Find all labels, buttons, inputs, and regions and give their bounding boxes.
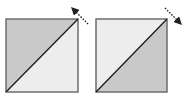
left-block (6, 19, 78, 92)
right-block (96, 19, 167, 92)
diagram-canvas (0, 0, 185, 101)
